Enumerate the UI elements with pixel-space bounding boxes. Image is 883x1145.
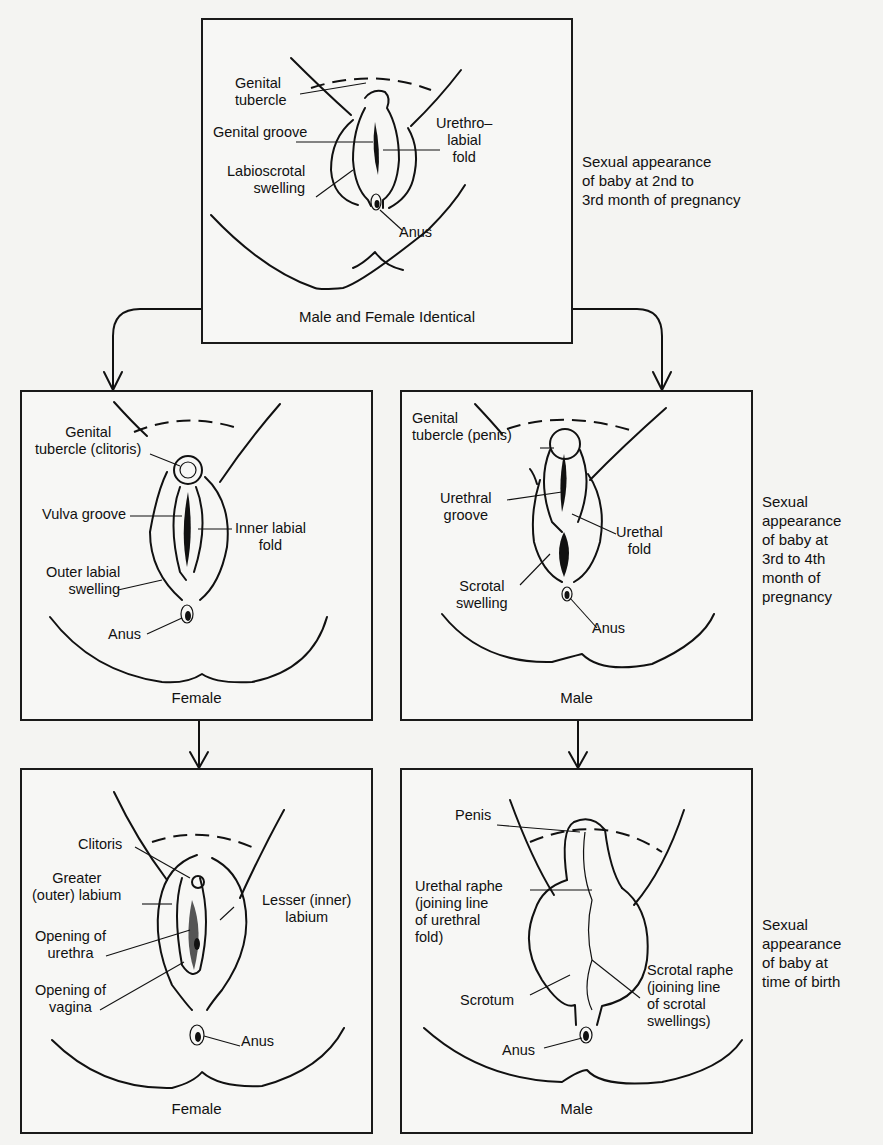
label-genital-tubercle-penis: Genital tubercle (penis) [412,410,512,444]
caption-female: Female [22,689,371,707]
label-anus: Anus [108,626,141,643]
side-note-stage1: Sexual appearance of baby at 2nd to 3rd … [582,152,740,209]
label-penis: Penis [455,807,491,824]
label-genital-tubercle-clitoris: Genital tubercle (clitoris) [35,424,141,458]
stage1-identical-panel: Genital tubercle Genital groove Labioscr… [201,18,573,344]
label-anus: Anus [592,620,625,637]
label-anus: Anus [502,1042,535,1059]
label-urethral-groove: Urethral groove [440,490,492,524]
label-anus: Anus [399,224,432,241]
label-genital-tubercle: Genital tubercle [235,75,287,109]
caption-male: Male [402,689,751,707]
label-greater-labium: Greater (outer) labium [32,870,121,904]
label-lesser-labium: Lesser (inner) labium [262,892,351,926]
label-opening-vagina: Opening of vagina [35,982,106,1016]
caption-identical: Male and Female Identical [203,308,571,326]
caption-female: Female [22,1100,371,1118]
label-anus: Anus [241,1033,274,1050]
label-labioscrotal-swelling: Labioscrotal swelling [227,163,305,197]
label-outer-labial-swelling: Outer labial swelling [46,564,120,598]
side-note-stage3: Sexual appearance of baby at time of bir… [762,915,841,991]
label-scrotal-swelling: Scrotal swelling [456,578,508,612]
label-urethal-raphe: Urethal raphe (joining line of urethral … [415,878,503,946]
caption-male: Male [402,1100,751,1118]
side-note-stage2: Sexual appearance of baby at 3rd to 4th … [762,492,841,606]
label-vulva-groove: Vulva groove [42,506,126,523]
label-clitoris: Clitoris [78,836,122,853]
label-genital-groove: Genital groove [213,124,307,141]
label-scrotum: Scrotum [460,992,514,1009]
stage3-male-panel: Penis Urethal raphe (joining line of ure… [400,768,753,1134]
label-opening-urethra: Opening of urethra [35,928,106,962]
label-inner-labial-fold: Inner labial fold [235,520,306,554]
stage3-female-panel: Clitoris Greater (outer) labium Lesser (… [20,768,373,1134]
label-urethal-fold: Urethal fold [616,524,663,558]
arrow-to-male-stage2 [572,309,662,388]
stage2-male-panel: Genital tubercle (penis) Urethral groove… [400,390,753,721]
label-scrotal-raphe: Scrotal raphe (joining line of scrotal s… [647,962,733,1030]
arrow-to-female-stage2 [113,309,201,388]
stage2-female-panel: Genital tubercle (clitoris) Vulva groove… [20,390,373,721]
label-urethrolabial-fold: Urethro– labial fold [436,115,492,166]
